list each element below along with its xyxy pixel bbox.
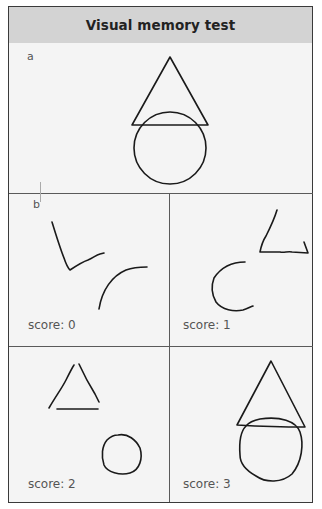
figure-frame: Visual memory test [8,6,313,503]
figure-header: Visual memory test [9,7,312,43]
divider-col-b [169,194,170,502]
score-label-1: score: 1 [183,318,231,332]
panel-b-label: b [33,198,40,211]
score-label-3: score: 3 [183,477,231,491]
label-b-tick [40,182,41,202]
score-label-2: score: 2 [28,477,76,491]
panel-a-label: a [27,50,34,63]
divider-row-b [9,346,313,347]
figure-title: Visual memory test [86,17,236,33]
score-label-0: score: 0 [28,318,76,332]
divider-a-b [9,193,313,194]
